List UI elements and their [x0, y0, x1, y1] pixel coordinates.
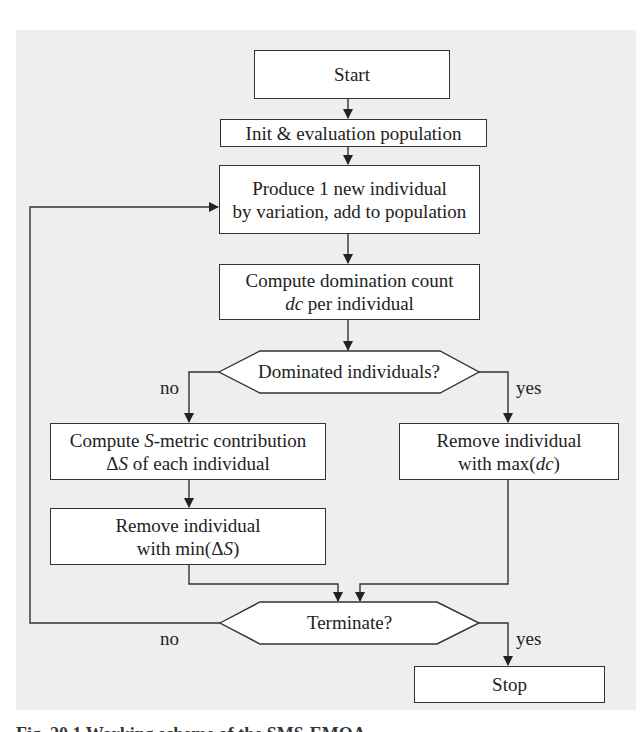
decision-terminate-label: Terminate?: [220, 602, 479, 644]
smetric-line1-pre: Compute: [70, 430, 144, 451]
node-removemax-line2: with max(dc): [458, 452, 560, 475]
node-produce: Produce 1 new individual by variation, a…: [219, 165, 480, 234]
removemax-line2-pre: with max(: [458, 453, 536, 474]
node-produce-line2: by variation, add to population: [233, 200, 467, 223]
node-smetric-line2: ΔS of each individual: [106, 452, 270, 475]
removemax-line2-post: ): [554, 453, 560, 474]
node-start: Start: [254, 50, 450, 99]
node-domcount-line1: Compute domination count: [246, 269, 454, 292]
decision-dominated-label: Dominated individuals?: [219, 351, 479, 393]
figure-caption: Fig. 20.1 Working scheme of the SMS-EMOA: [16, 724, 366, 732]
node-domcount-line2-rest: per individual: [303, 293, 414, 314]
node-init: Init & evaluation population: [220, 119, 487, 147]
node-domination-count: Compute domination count dc per individu…: [219, 264, 480, 320]
delta-symbol: Δ: [106, 453, 118, 474]
edge-label-terminate-no: no: [160, 628, 179, 650]
node-produce-line1: Produce 1 new individual: [252, 177, 447, 200]
node-smetric-line1: Compute S-metric contribution: [70, 429, 306, 452]
s-variable: S: [223, 538, 233, 559]
dc-variable: dc: [536, 453, 554, 474]
smetric-line1-post: -metric contribution: [154, 430, 306, 451]
removemin-line2-pre: with min(Δ: [137, 538, 224, 559]
node-s-metric: Compute S-metric contribution ΔS of each…: [50, 423, 326, 480]
removemin-line2-post: ): [233, 538, 239, 559]
node-stop-label: Stop: [492, 673, 527, 696]
node-removemax-line1: Remove individual: [436, 429, 581, 452]
s-variable: S: [118, 453, 128, 474]
dc-variable: dc: [285, 293, 303, 314]
node-start-label: Start: [334, 63, 370, 86]
node-domcount-line2: dc per individual: [285, 292, 414, 315]
node-removemin-line1: Remove individual: [115, 514, 260, 537]
node-removemin-line2: with min(ΔS): [137, 537, 239, 560]
smetric-line2-post: of each individual: [128, 453, 270, 474]
edge-label-dominated-yes: yes: [516, 377, 541, 399]
node-init-label: Init & evaluation population: [246, 122, 462, 145]
edge-label-dominated-no: no: [160, 377, 179, 399]
node-remove-min: Remove individual with min(ΔS): [50, 508, 326, 565]
node-stop: Stop: [414, 666, 605, 703]
node-remove-max: Remove individual with max(dc): [399, 423, 619, 480]
edge-label-terminate-yes: yes: [516, 628, 541, 650]
s-variable: S: [144, 430, 154, 451]
